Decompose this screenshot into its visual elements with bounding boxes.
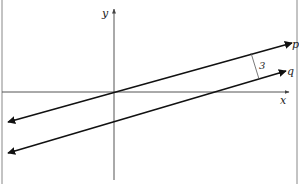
y-axis-label: y — [101, 7, 109, 20]
line-q-label: q — [287, 65, 294, 78]
line-p-label: p — [292, 38, 299, 51]
distance-marker — [251, 53, 259, 79]
distance-label: 3 — [259, 60, 265, 71]
diagram-canvas: x y p q 3 — [0, 0, 299, 184]
x-axis-label: x — [280, 94, 287, 107]
